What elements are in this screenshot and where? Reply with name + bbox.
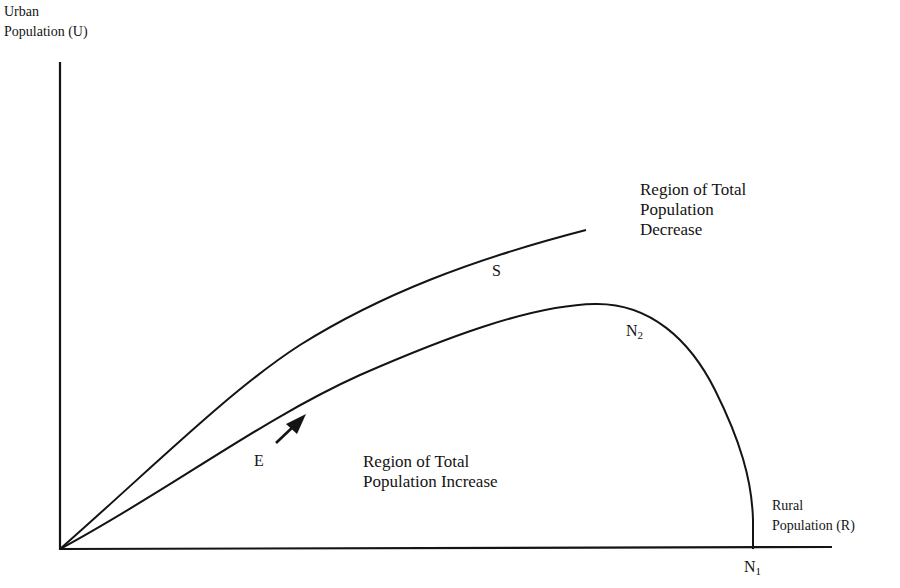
region-decrease-label: Region of Total Population Decrease (640, 180, 746, 240)
curve-label-n2-text: N (626, 322, 638, 339)
region-decrease-line2: Population (640, 200, 746, 220)
curve-label-n1-subscript: 1 (756, 565, 762, 577)
y-axis-label-line1: Urban (4, 2, 88, 22)
x-axis-label: Rural Population (R) (772, 496, 855, 536)
curve-label-n1-text: N (744, 558, 756, 575)
s-curve (60, 230, 586, 549)
y-axis-label-line2: Population (U) (4, 22, 88, 42)
curve-label-n1: N1 (744, 558, 761, 577)
curve-label-s-text: S (492, 262, 501, 279)
n-curve (60, 304, 753, 549)
curve-label-n2: N2 (626, 322, 643, 341)
curve-label-e: E (254, 452, 264, 470)
region-increase-line1: Region of Total (363, 452, 498, 472)
arrow-icon (276, 414, 306, 443)
x-axis-label-line1: Rural (772, 496, 855, 516)
region-decrease-line1: Region of Total (640, 180, 746, 200)
x-axis (59, 547, 832, 549)
curve-label-e-text: E (254, 452, 264, 469)
curve-label-n2-subscript: 2 (638, 329, 644, 341)
x-axis-label-line2: Population (R) (772, 516, 855, 536)
curve-label-s: S (492, 262, 501, 280)
diagram-canvas (0, 0, 900, 588)
y-axis-label: Urban Population (U) (4, 2, 88, 42)
region-decrease-line3: Decrease (640, 220, 746, 240)
region-increase-label: Region of Total Population Increase (363, 452, 498, 492)
region-increase-line2: Population Increase (363, 472, 498, 492)
